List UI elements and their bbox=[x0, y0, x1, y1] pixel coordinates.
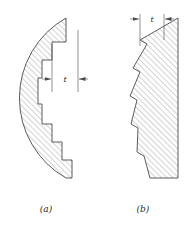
panel-a-dimension-label: t bbox=[63, 75, 67, 84]
panel-b-dimension-label: t bbox=[150, 15, 154, 24]
panel-b-caption: (b) bbox=[137, 204, 150, 214]
panel-b: t (b) bbox=[120, 10, 184, 214]
figure-container: t (a) t (b) bbox=[0, 0, 186, 226]
technical-diagram: t (a) t (b) bbox=[0, 0, 186, 226]
panel-b-hatched-body bbox=[120, 10, 184, 190]
panel-a-hatched-body bbox=[20, 10, 90, 190]
panel-a: t (a) bbox=[19, 10, 90, 214]
panel-a-caption: (a) bbox=[40, 204, 53, 214]
